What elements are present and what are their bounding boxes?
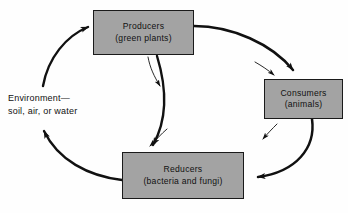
environment-label: Environment— soil, air, or water — [8, 92, 112, 117]
connector-consumers-to-environment-thin — [263, 124, 277, 139]
node-reducers-subtitle: (bacteria and fungi) — [143, 176, 222, 188]
node-reducers-title: Reducers — [164, 164, 203, 176]
node-reducers: Reducers (bacteria and fungi) — [122, 152, 244, 199]
environment-label-line1: Environment— — [8, 92, 112, 105]
connector-consumers-to-reducers — [258, 119, 313, 177]
connector-producers-to-reducers — [153, 56, 164, 145]
node-producers-title: Producers — [123, 21, 164, 33]
connector-producers-to-consumers — [194, 26, 293, 70]
node-producers-subtitle: (green plants) — [115, 33, 172, 45]
connector-producers-to-consumers-thin — [255, 62, 274, 75]
ecological-cycle-diagram: Producers (green plants) Consumers (anim… — [0, 0, 348, 213]
connector-reducers-to-environment — [44, 131, 122, 180]
node-consumers-subtitle: (animals) — [285, 99, 323, 111]
connector-environment-to-producers — [43, 27, 88, 86]
node-consumers-title: Consumers — [280, 88, 326, 100]
environment-label-line2: soil, air, or water — [8, 105, 112, 118]
node-producers: Producers (green plants) — [93, 10, 194, 55]
node-consumers: Consumers (animals) — [264, 79, 343, 119]
